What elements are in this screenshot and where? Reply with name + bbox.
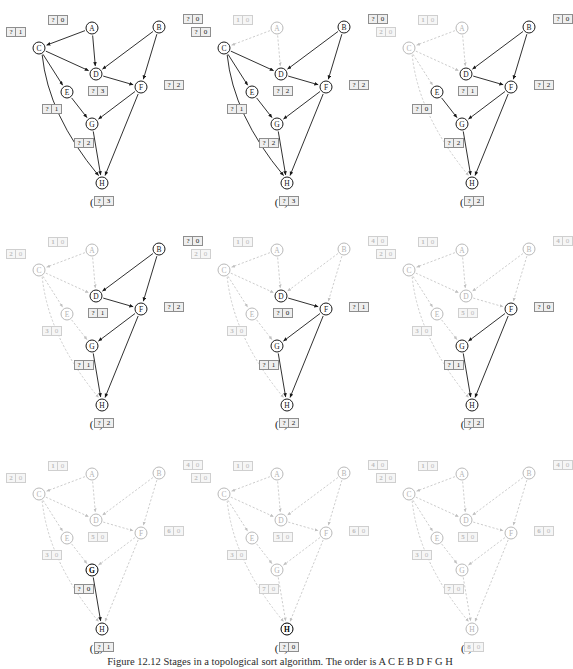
label-d-order: ? (273, 308, 283, 318)
label-f-indegree: 2 (544, 80, 554, 90)
label-h-order: ? (279, 642, 289, 652)
edge-c-d (46, 273, 89, 292)
label-h-order: 8 (464, 642, 474, 652)
edge-g-h (463, 577, 470, 621)
panel-d: A10B?0C20D?1E30F?2G?1H?2(d) (4, 222, 189, 442)
label-e-indegree: 1 (52, 104, 62, 114)
label-c-order: ? (191, 27, 201, 37)
label-c-order: ? (6, 27, 16, 37)
label-c: 20 (6, 249, 26, 259)
node-a: A (456, 468, 469, 481)
label-c-order: 2 (6, 473, 16, 483)
label-h-order: ? (94, 196, 104, 206)
edge-b-f (513, 34, 526, 79)
label-a-indegree: 0 (428, 15, 438, 25)
node-c: C (218, 264, 231, 277)
edge-b-f (143, 34, 156, 79)
label-d: ?0 (273, 308, 293, 318)
label-h-order: ? (279, 196, 289, 206)
node-d: D (460, 290, 473, 303)
label-e-indegree: 0 (52, 326, 62, 336)
label-g-order: 7 (259, 584, 269, 594)
label-b-order: 4 (368, 236, 378, 246)
label-c-indegree: 0 (16, 249, 26, 259)
edge-a-d (278, 257, 281, 287)
label-h-order: ? (279, 418, 289, 428)
label-g-order: ? (444, 360, 454, 370)
label-d-indegree: 0 (468, 532, 478, 542)
node-g: G (86, 118, 99, 131)
node-g: G (456, 564, 469, 577)
edge-a-d (463, 35, 466, 65)
node-d: D (460, 68, 473, 81)
label-b: ?0 (183, 14, 203, 24)
label-g-indegree: 1 (454, 360, 464, 370)
label-f-order: 6 (534, 526, 544, 536)
label-f-indegree: 0 (544, 526, 554, 536)
node-f: F (320, 81, 333, 94)
label-g: 70 (444, 584, 464, 594)
node-e: E (246, 86, 259, 99)
node-a: A (271, 22, 284, 35)
node-h: H (96, 399, 109, 412)
edge-b-f (328, 480, 341, 525)
label-e-order: 3 (42, 550, 52, 560)
label-h-indegree: 2 (474, 418, 484, 428)
label-d-indegree: 2 (283, 86, 293, 96)
node-c: C (403, 488, 416, 501)
edge-c-d (416, 497, 459, 516)
label-c-order: 2 (6, 249, 16, 259)
node-e: E (246, 532, 259, 545)
edge-g-h (93, 577, 100, 621)
node-h: H (281, 399, 294, 412)
label-f-indegree: 0 (544, 302, 554, 312)
label-g-indegree: 0 (269, 584, 279, 594)
label-f: ?1 (349, 302, 369, 312)
edge-b-d (473, 253, 523, 291)
panel-f-graph: A10B40C20D50E30F?0G?1H?2 (374, 222, 559, 422)
edge-b-d (288, 477, 338, 515)
edge-a-d (93, 481, 96, 511)
label-f-order: 6 (164, 526, 174, 536)
label-h: ?3 (94, 196, 114, 206)
label-e: ?1 (42, 104, 62, 114)
label-e-indegree: 0 (422, 104, 432, 114)
label-e-indegree: 0 (422, 326, 432, 336)
edge-c-e (43, 276, 63, 307)
edge-b-f (328, 34, 341, 79)
label-f-indegree: 0 (359, 526, 369, 536)
edge-d-f (473, 522, 503, 531)
node-c: C (33, 488, 46, 501)
label-e: ?1 (227, 104, 247, 114)
edge-a-d (93, 257, 96, 287)
label-a-indegree: 0 (58, 15, 68, 25)
node-h: H (466, 399, 479, 412)
edge-e-g (72, 98, 87, 118)
edge-a-d (93, 35, 96, 65)
node-d: D (90, 68, 103, 81)
label-b: ?0 (368, 14, 388, 24)
node-b: B (523, 467, 536, 480)
node-f: F (505, 527, 518, 540)
node-a: A (456, 22, 469, 35)
node-h: H (96, 623, 109, 636)
label-h-indegree: 3 (289, 196, 299, 206)
label-c-order: 2 (191, 473, 201, 483)
label-b-indegree: 0 (563, 236, 573, 246)
edge-a-c (232, 31, 270, 45)
edge-d-f (103, 298, 133, 307)
label-f-indegree: 1 (359, 302, 369, 312)
edge-c-e (413, 500, 433, 531)
edge-e-g (257, 544, 272, 564)
label-f: 60 (534, 526, 554, 536)
label-h: ?2 (279, 418, 299, 428)
label-a-order: 1 (233, 237, 243, 247)
edge-g-h (278, 577, 285, 621)
label-d-indegree: 1 (468, 86, 478, 96)
label-b: 40 (553, 460, 573, 470)
label-h-indegree: 3 (104, 196, 114, 206)
label-h: ?2 (464, 418, 484, 428)
label-c-order: 2 (376, 27, 386, 37)
label-g: ?0 (74, 584, 94, 594)
node-a: A (86, 244, 99, 257)
